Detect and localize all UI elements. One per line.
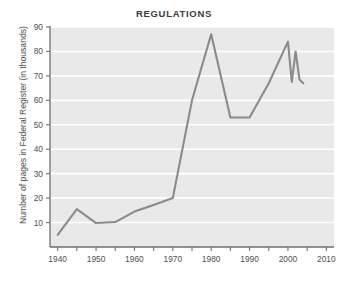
x-tick-label: 1990 xyxy=(240,254,259,264)
y-tick-label: 40 xyxy=(34,144,44,154)
y-tick-label: 90 xyxy=(34,22,44,32)
x-tick-label: 1980 xyxy=(202,254,221,264)
chart-plot: 102030405060708090 194019501960197019801… xyxy=(0,0,348,285)
x-tick-label: 2010 xyxy=(317,254,336,264)
y-tick-label: 50 xyxy=(34,120,44,130)
x-tick-label: 1940 xyxy=(48,254,67,264)
y-tick-label: 20 xyxy=(34,193,44,203)
y-tick-label: 70 xyxy=(34,71,44,81)
y-tick-label: 10 xyxy=(34,218,44,228)
x-tick-label: 2000 xyxy=(279,254,298,264)
x-tick-label: 1950 xyxy=(87,254,106,264)
y-tick-group: 102030405060708090 xyxy=(34,22,50,228)
y-tick-label: 80 xyxy=(34,46,44,56)
x-tick-label: 1960 xyxy=(125,254,144,264)
x-tick-label: 1970 xyxy=(163,254,182,264)
plot-background-group xyxy=(50,27,334,247)
y-tick-label: 60 xyxy=(34,95,44,105)
y-tick-label: 30 xyxy=(34,169,44,179)
x-tick-group: 19401950196019701980199020002010 xyxy=(48,247,336,264)
plot-background xyxy=(50,27,334,247)
chart-container: REGULATIONS Number of pages in Federal R… xyxy=(0,0,348,285)
